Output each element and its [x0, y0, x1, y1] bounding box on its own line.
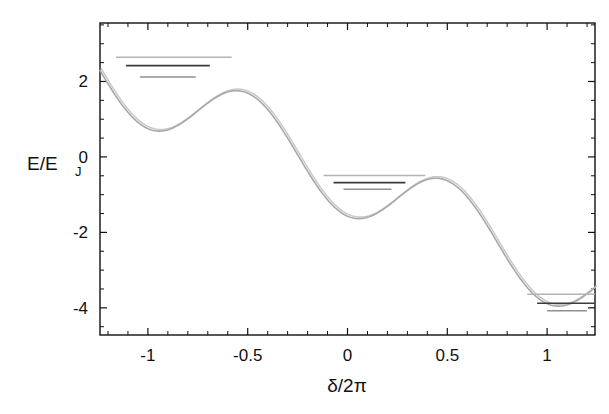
x-tick-label: -0.5: [233, 346, 262, 365]
x-tick-label: 0.5: [435, 346, 459, 365]
potential-curves: [100, 69, 596, 306]
potential-curve: [100, 71, 595, 307]
well-left: [116, 57, 232, 77]
washboard-potential-chart: -1-0.500.51 20-2-4 δ/2π E/E J: [0, 0, 609, 414]
y-axis-label: E/E: [27, 153, 58, 174]
y-axis-tick-labels: 20-2-4: [73, 72, 88, 317]
y-tick-label: 2: [79, 72, 88, 91]
y-tick-label: -4: [73, 299, 88, 318]
y-tick-label: -2: [73, 223, 88, 242]
x-tick-label: 1: [542, 346, 551, 365]
y-axis-label-group: E/E J: [27, 153, 82, 179]
figure-container: -1-0.500.51 20-2-4 δ/2π E/E J: [0, 0, 609, 414]
x-axis-tick-labels: -1-0.500.51: [140, 346, 551, 365]
y-axis-label-subscript: J: [75, 164, 82, 179]
potential-curve-ghost: [101, 69, 596, 305]
x-tick-label: 0: [343, 346, 352, 365]
x-axis-ticks: [108, 23, 587, 335]
energy-levels: [116, 57, 595, 311]
x-tick-label: -1: [140, 346, 155, 365]
plot-frame: [100, 23, 595, 335]
x-axis-label: δ/2π: [327, 375, 367, 396]
